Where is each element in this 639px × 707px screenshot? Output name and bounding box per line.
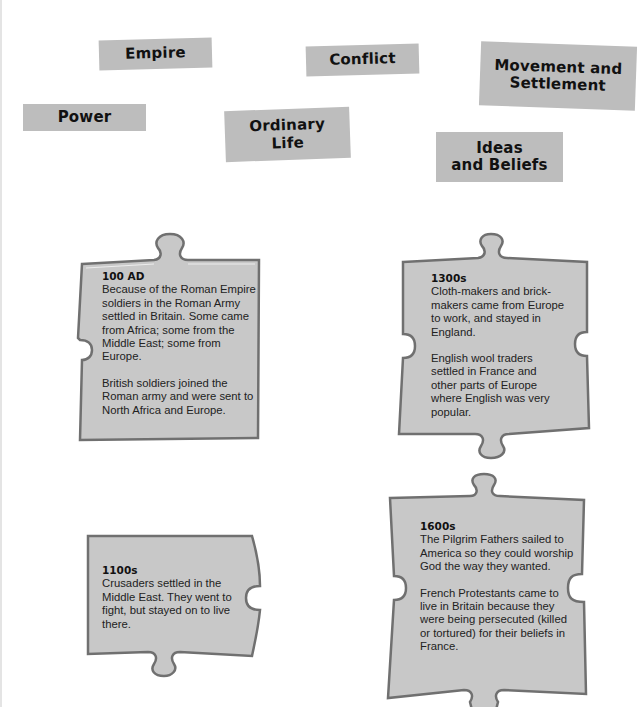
label-conflict[interactable]: Conflict bbox=[306, 44, 420, 77]
piece-paragraph: English wool traders settled in France a… bbox=[431, 352, 581, 419]
label-power[interactable]: Power bbox=[23, 104, 146, 131]
piece-paragraph: Crusaders settled in the Middle East. Th… bbox=[102, 577, 252, 631]
puzzle-piece-1100s[interactable]: 1100s Crusaders settled in the Middle Ea… bbox=[82, 530, 272, 690]
puzzle-piece-1300s[interactable]: 1300s Cloth-makers and brick- makers cam… bbox=[393, 228, 613, 463]
piece-year: 1600s bbox=[420, 520, 595, 533]
piece-year: 100 AD bbox=[102, 270, 262, 283]
piece-year: 1300s bbox=[431, 272, 581, 285]
piece-paragraph: Because of the Roman Empire soldiers in … bbox=[102, 283, 262, 363]
page-edge bbox=[0, 0, 2, 707]
piece-paragraph: French Protestants came to live in Brita… bbox=[420, 587, 595, 654]
label-ordinary-life[interactable]: Ordinary Life bbox=[224, 107, 351, 162]
puzzle-piece-100ad[interactable]: 100 AD Because of the Roman Empire soldi… bbox=[70, 228, 270, 448]
piece-paragraph: Cloth-makers and brick- makers came from… bbox=[431, 285, 581, 339]
label-ideas-beliefs[interactable]: Ideas and Beliefs bbox=[436, 132, 563, 182]
piece-paragraph: The Pilgrim Fathers sailed to America so… bbox=[420, 533, 595, 573]
label-empire[interactable]: Empire bbox=[99, 38, 213, 71]
puzzle-piece-1600s[interactable]: 1600s The Pilgrim Fathers sailed to Amer… bbox=[380, 470, 610, 707]
piece-year: 1100s bbox=[102, 564, 252, 577]
label-movement-settlement[interactable]: Movement and Settlement bbox=[479, 41, 637, 110]
piece-paragraph: British soldiers joined the Roman army a… bbox=[102, 377, 262, 417]
